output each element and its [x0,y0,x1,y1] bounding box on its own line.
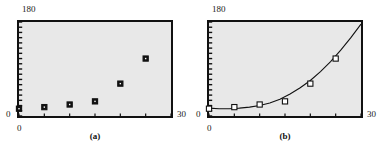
data-point-marker-center [18,108,19,109]
panel-a: 180 0 0 30 (a) [0,0,190,152]
data-point-marker-center [69,104,70,105]
data-point-marker [333,56,338,61]
x-axis-ticks-a [19,113,171,116]
figure-container: 180 0 0 30 (a) 180 0 0 30 (b) [0,0,380,152]
data-markers-b [206,56,338,111]
data-point-marker [257,102,262,107]
data-point-marker-center [94,101,95,102]
fitted-curve-b [209,24,361,109]
x-axis-ticks-b [209,113,361,116]
data-point-marker [308,81,313,86]
panel-caption-b: (b) [190,131,380,141]
panel-caption-a: (a) [0,131,190,141]
plot-svg-b [190,0,380,152]
y-axis-ticks-a [19,22,22,116]
data-point-marker-center [145,58,146,59]
y-axis-ticks-b [209,22,212,116]
plot-svg-a [0,0,190,152]
data-point-marker [232,105,237,110]
panel-b: 180 0 0 30 (b) [190,0,380,152]
data-markers-a [16,56,148,111]
data-point-marker-center [120,83,121,84]
data-point-marker-center [44,106,45,107]
data-point-marker [206,106,211,111]
data-point-marker [282,99,287,104]
